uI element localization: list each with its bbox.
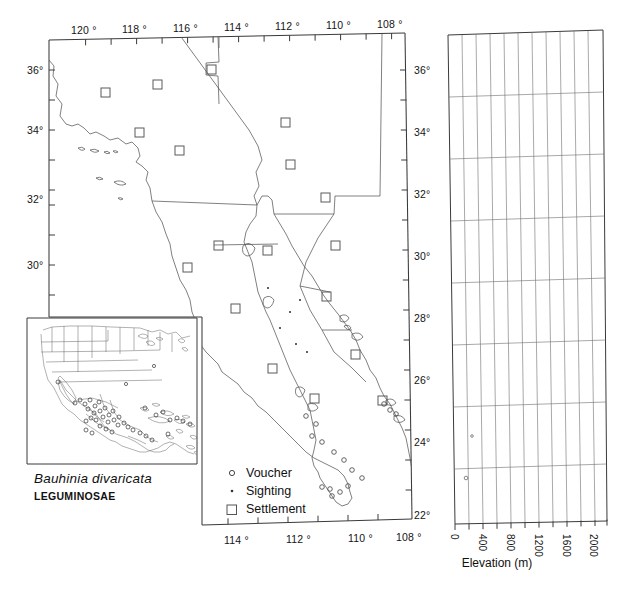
lat-label-right-6: 24° <box>414 436 430 448</box>
lat-label-right-0: 36° <box>414 64 430 76</box>
inset-map-geography <box>41 326 199 454</box>
longitude-ticks-top <box>86 33 392 45</box>
settlement-markers <box>101 65 387 405</box>
legend-sighting-icon <box>231 490 234 493</box>
lat-label-left-1: 34° <box>27 124 43 136</box>
lat-label-right-7: 22° <box>414 509 430 521</box>
lon-label-top-2: 116 ° <box>173 22 198 34</box>
voucher-markers <box>304 402 399 499</box>
lat-label-right-3: 30° <box>414 250 430 262</box>
lat-label-right-4: 28° <box>414 312 430 324</box>
elevation-panel-grid <box>449 31 607 524</box>
inset-occurrence-markers <box>56 364 192 442</box>
inset-map-frame <box>27 318 197 464</box>
elev-tick-3: 1200 <box>533 534 544 557</box>
legend-label-settlement: Settlement <box>246 502 306 516</box>
map-canvas <box>0 0 622 601</box>
legend-settlement-icon <box>227 505 237 515</box>
elev-tick-1: 400 <box>477 534 488 551</box>
legend-symbols <box>227 470 237 514</box>
elev-tick-5: 2000 <box>588 534 599 557</box>
elevation-axis-title: Elevation (m) <box>462 556 533 570</box>
lon-label-top-0: 120 ° <box>71 24 97 36</box>
sighting-markers <box>267 287 308 353</box>
legend-label-voucher: Voucher <box>246 466 292 480</box>
lon-label-bottom-0: 114 ° <box>224 534 249 546</box>
lon-label-top-3: 114 ° <box>224 21 249 33</box>
lat-label-right-2: 32° <box>414 188 430 200</box>
lat-label-left-0: 36° <box>27 64 43 76</box>
elevation-panel-frame <box>448 30 607 524</box>
elev-tick-4: 1600 <box>561 534 572 557</box>
species-name: Bauhinia divaricata <box>34 471 152 486</box>
map-geography <box>49 34 412 506</box>
lat-label-left-3: 30° <box>27 259 43 271</box>
legend-voucher-icon <box>229 470 234 475</box>
elev-tick-2: 800 <box>505 534 516 551</box>
lon-label-bottom-3: 108 ° <box>396 531 422 543</box>
figure-root: 120 ° 118 ° 116 ° 114 ° 112 ° 110 ° 108 … <box>0 0 622 601</box>
latitude-ticks-left <box>49 70 55 295</box>
lon-label-bottom-2: 110 ° <box>348 532 373 544</box>
legend-label-sighting: Sighting <box>246 484 291 498</box>
lat-label-left-2: 32° <box>27 193 43 205</box>
lat-label-right-5: 26° <box>414 374 430 386</box>
lon-label-bottom-1: 112 ° <box>286 533 311 545</box>
lon-label-top-5: 110 ° <box>326 19 351 31</box>
family-name: LEGUMINOSAE <box>34 490 115 502</box>
lon-label-top-4: 112 ° <box>275 20 300 32</box>
lon-label-top-1: 118 ° <box>122 23 147 35</box>
map-frame <box>49 33 412 525</box>
elev-tick-0: 0 <box>449 534 460 540</box>
lon-label-top-6: 108 ° <box>377 18 403 30</box>
lat-label-right-1: 34° <box>414 126 430 138</box>
elevation-occurrence-markers <box>464 435 473 480</box>
